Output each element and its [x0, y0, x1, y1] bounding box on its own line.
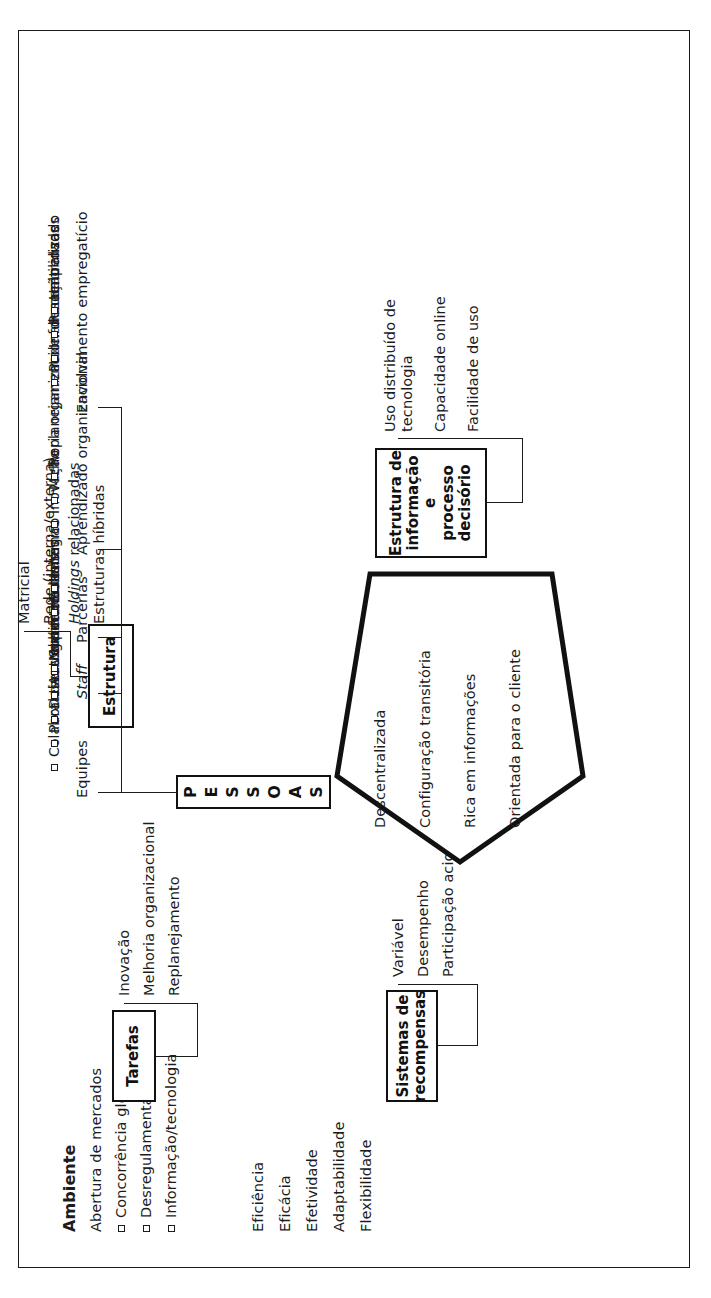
estrutura-title: Estrutura [102, 636, 119, 716]
pessoas-riser [121, 792, 177, 793]
resultado-item-efetividade: Efetividade [304, 1149, 320, 1232]
resultado-item-eficacia: Eficácia [277, 1175, 293, 1232]
tarefas-item-1: Melhoria organizacional [141, 821, 157, 996]
diagram-canvas: Ambiente Abertura de mercados Concorrênc… [0, 0, 711, 1298]
ambiente-lead: Abertura de mercados [88, 1068, 104, 1232]
info-decisao-item-1: Capacidade online [432, 296, 448, 432]
tarefas-title: Tarefas [125, 1025, 142, 1087]
ambiente-item-2: Informação/tecnologia [163, 1053, 179, 1232]
checkbox-icon [51, 521, 58, 528]
pessoas-leaf-2-1: Internas [46, 520, 62, 592]
pentagono-item-3: Orientada para o cliente [507, 649, 523, 828]
checkbox-icon [51, 764, 58, 771]
pessoas-leaf-label: Habilidades [46, 217, 62, 300]
checkbox-icon [143, 1225, 150, 1232]
ambiente-title: Ambiente [60, 1144, 79, 1232]
checkbox-icon [51, 716, 58, 723]
checkbox-icon [51, 585, 58, 592]
pentagono-item-1: Configuração transitória [417, 650, 433, 828]
estrutura-box[interactable]: Estrutura [88, 624, 134, 728]
checkbox-icon [51, 473, 58, 480]
recompensas-bracket [398, 984, 478, 985]
pessoas-letter-0: P [180, 786, 201, 798]
pessoas-group-label-parcerias: Parcerias [74, 576, 90, 643]
recompensas-box[interactable]: Sistemas de recompensas [386, 990, 438, 1102]
info-decisao-connector-vertical [487, 502, 523, 503]
info-decisao-title-line3: processo [440, 450, 457, 556]
info-decisao-title-line2: informação e [405, 450, 440, 556]
info-decisao-bracket [398, 438, 523, 439]
pessoas-group-riser-envolvimento [98, 407, 122, 408]
recompensas-connector-horizontal [477, 984, 478, 1046]
checkbox-icon [118, 1225, 125, 1232]
pessoas-group-riser-equipes [98, 792, 122, 793]
pessoas-leaf-label: Internas [46, 520, 62, 578]
pentagon-shape [330, 568, 590, 868]
tarefas-item-0: Inovação [116, 930, 132, 996]
checkbox-icon [51, 307, 58, 314]
pentagono-item-2: Rica em informações [462, 674, 478, 828]
tarefas-box[interactable]: Tarefas [112, 1010, 156, 1102]
tarefas-item-2: Replanejamento [166, 876, 182, 996]
pessoas-group-riser-aprendizado [98, 549, 122, 550]
tarefas-connector-vertical [156, 1056, 198, 1057]
checkbox-icon [51, 740, 58, 747]
pessoas-letter-1: E [201, 787, 222, 798]
pessoas-letter-5: A [285, 786, 306, 798]
checkbox-icon [168, 1225, 175, 1232]
pessoas-leaf-4-3: Habilidades [46, 217, 62, 314]
pessoas-box[interactable]: P E S S O A S [176, 775, 331, 809]
pessoas-letter-2: S [222, 786, 243, 798]
resultado-item-eficiencia: Eficiência [250, 1162, 266, 1232]
info-decisao-box[interactable]: Estrutura de informação e processo decis… [375, 448, 487, 558]
pessoas-letter-4: O [264, 785, 285, 799]
pessoas-group-riser-parcerias [98, 637, 122, 638]
checkbox-icon [51, 665, 58, 672]
pessoas-letter-6: S [306, 786, 327, 798]
info-decisao-item-2: Facilidade de uso [465, 305, 481, 432]
figure-rotation-wrapper: Ambiente Abertura de mercados Concorrênc… [0, 0, 711, 1298]
pessoas-group-riser-staff [98, 693, 122, 694]
recompensas-title-line2: recompensas [412, 990, 429, 1102]
resultado-item-flexibilidade: Flexibilidade [358, 1140, 374, 1232]
pessoas-letter-3: S [243, 786, 264, 798]
checkbox-icon [51, 331, 58, 338]
pessoas-distribution-bar [121, 407, 122, 793]
recompensas-item-0: Variável [390, 918, 406, 977]
recompensas-connector-vertical [438, 1045, 478, 1046]
checkbox-icon [51, 379, 58, 386]
resultado-item-adaptabilidade: Adaptabilidade [331, 1122, 347, 1232]
pessoas-group-label-staff: Staff [74, 665, 90, 699]
checkbox-icon [51, 609, 58, 616]
estrutura-item-0: Matricial [16, 561, 32, 624]
pentagono-item-0: Descentralizada [372, 710, 388, 828]
estrutura-item-3: Estruturas híbridas [91, 485, 107, 624]
info-decisao-title-line1: Estrutura de [388, 450, 405, 556]
pessoas-group-label-envolvimento: Envolvimento empregatício [74, 211, 90, 413]
recompensas-title-line1: Sistemas de [395, 990, 412, 1102]
tarefas-bracket [124, 1003, 198, 1004]
info-decisao-item-0: Uso distribuído de tecnologia [382, 262, 416, 432]
checkbox-icon [51, 497, 58, 504]
info-decisao-connector-horizontal [522, 438, 523, 503]
recompensas-item-1: Desempenho [415, 880, 431, 977]
pessoas-group-label-equipes: Equipes [74, 740, 90, 798]
info-decisao-title-line4: decisório [457, 450, 474, 556]
checkbox-icon [51, 692, 58, 699]
ambiente-item-label: Informação/tecnologia [163, 1053, 179, 1218]
estrutura-connector-horizontal [70, 631, 71, 677]
tarefas-connector-horizontal [197, 1003, 198, 1057]
checkbox-icon [51, 355, 58, 362]
